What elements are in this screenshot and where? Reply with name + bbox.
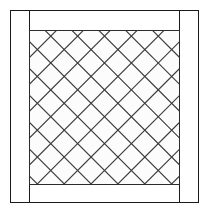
figure-canvas: [0, 0, 209, 214]
lattice-panel-drawing: [0, 0, 209, 214]
lattice-panel-field: [30, 31, 180, 185]
lattice-line-up-0: [30, 0, 210, 31]
